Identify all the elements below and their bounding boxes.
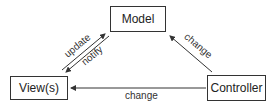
controller-view-label: change	[125, 90, 158, 101]
view-node: View(s)	[10, 76, 68, 100]
controller-label: Controller	[210, 81, 262, 95]
model-label: Model	[122, 12, 155, 26]
model-node: Model	[110, 6, 166, 32]
controller-node: Controller	[207, 75, 266, 101]
view-label: View(s)	[19, 81, 59, 95]
